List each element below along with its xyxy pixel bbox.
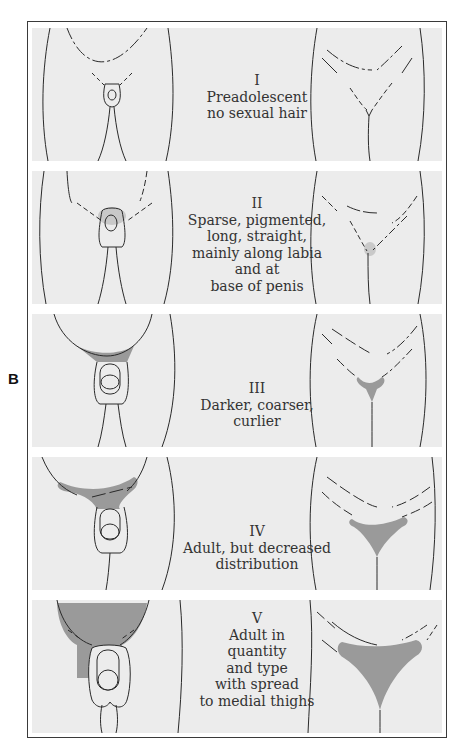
stage-5-line-4: with spread xyxy=(182,676,332,693)
stage-panel-5: V Adult in quantity and type with spread… xyxy=(32,600,442,733)
stage-2-numeral: II xyxy=(182,195,332,212)
stage-3-numeral: III xyxy=(182,380,332,397)
stage-5-caption: V Adult in quantity and type with spread… xyxy=(182,610,332,709)
stage-2-line-5: base of penis xyxy=(182,278,332,295)
stage-5-line-1: Adult in xyxy=(182,627,332,644)
stage-5-line-2: quantity xyxy=(182,643,332,660)
stage-5-line-5: to medial thighs xyxy=(182,693,332,710)
stage-2-line-1: Sparse, pigmented, xyxy=(182,212,332,229)
stage-5-line-3: and type xyxy=(182,660,332,677)
stage-1-numeral: I xyxy=(182,72,332,89)
stage-panel-4: IV Adult, but decreased distribution xyxy=(32,457,442,590)
stage-1-caption: I Preadolescent no sexual hair xyxy=(182,72,332,122)
stage-4-line-1: Adult, but decreased xyxy=(182,540,332,557)
stage-2-line-2: long, straight, xyxy=(182,228,332,245)
stage-4-numeral: IV xyxy=(182,523,332,540)
stage-panel-3: III Darker, coarser, curlier xyxy=(32,314,442,447)
figure-label-b: B xyxy=(8,370,19,387)
stage-5-numeral: V xyxy=(182,610,332,627)
stage-3-line-1: Darker, coarser, xyxy=(182,397,332,414)
stage-panel-1: I Preadolescent no sexual hair xyxy=(32,28,442,161)
stage-2-line-3: mainly along labia xyxy=(182,245,332,262)
stage-2-line-4: and at xyxy=(182,261,332,278)
stage-3-line-2: curlier xyxy=(182,413,332,430)
stage-4-line-2: distribution xyxy=(182,556,332,573)
stage-1-line-1: Preadolescent xyxy=(182,89,332,106)
stage-3-caption: III Darker, coarser, curlier xyxy=(182,380,332,430)
stage-2-caption: II Sparse, pigmented, long, straight, ma… xyxy=(182,195,332,294)
figure-frame: I Preadolescent no sexual hair xyxy=(27,21,447,738)
stage-1-line-2: no sexual hair xyxy=(182,105,332,122)
stage-4-caption: IV Adult, but decreased distribution xyxy=(182,523,332,573)
stage-panel-2: II Sparse, pigmented, long, straight, ma… xyxy=(32,171,442,304)
